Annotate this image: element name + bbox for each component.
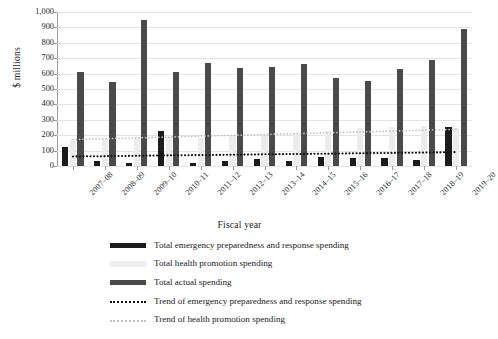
x-tick-mark bbox=[169, 166, 170, 170]
x-tick-label: 2011–12 bbox=[215, 170, 242, 197]
trend-line bbox=[73, 152, 456, 156]
y-tick-mark bbox=[53, 104, 57, 105]
x-tick-label: 2013–14 bbox=[279, 170, 306, 197]
legend-item: Total emergency preparedness and respons… bbox=[110, 236, 470, 255]
x-axis-title: Fiscal year bbox=[0, 219, 479, 230]
x-tick-label: 2009–10 bbox=[151, 170, 178, 197]
y-tick-mark bbox=[53, 151, 57, 152]
x-tick-mark bbox=[105, 166, 106, 170]
x-tick-label: 2018–19 bbox=[439, 170, 466, 197]
x-tick-mark bbox=[456, 166, 457, 170]
x-tick-mark bbox=[233, 166, 234, 170]
y-tick-mark bbox=[53, 43, 57, 44]
y-tick-label: 800 bbox=[8, 39, 54, 47]
x-tick-mark bbox=[424, 166, 425, 170]
x-tick-mark bbox=[328, 166, 329, 170]
trend-line bbox=[73, 129, 456, 139]
x-tick-label: 2010–11 bbox=[183, 170, 210, 197]
y-tick-label: 1,000 bbox=[8, 8, 54, 16]
x-tick-mark bbox=[360, 166, 361, 170]
y-tick-label: 500 bbox=[8, 85, 54, 93]
legend-item: Total actual spending bbox=[110, 273, 470, 292]
legend-item: Trend of health promotion spending bbox=[110, 310, 470, 329]
x-tick-label: 2007–08 bbox=[88, 170, 115, 197]
legend-label: Total health promotion spending bbox=[154, 259, 272, 268]
legend-swatch-icon bbox=[110, 301, 146, 303]
trend-lines bbox=[57, 12, 472, 166]
y-tick-mark bbox=[53, 58, 57, 59]
y-tick-label: 400 bbox=[8, 100, 54, 108]
x-tick-mark bbox=[201, 166, 202, 170]
plot-area bbox=[57, 12, 472, 166]
x-tick-mark bbox=[137, 166, 138, 170]
x-tick-label: 2016–17 bbox=[375, 170, 402, 197]
y-tick-mark bbox=[53, 120, 57, 121]
legend-label: Total emergency preparedness and respons… bbox=[154, 241, 349, 250]
x-axis-tick-labels: 2007–082008–092009–102010–112011–122012–… bbox=[57, 166, 472, 224]
y-tick-label: 900 bbox=[8, 23, 54, 31]
y-tick-label: 0 bbox=[8, 162, 54, 170]
x-tick-label: 2017–18 bbox=[407, 170, 434, 197]
y-tick-label: 300 bbox=[8, 116, 54, 124]
legend-label: Total actual spending bbox=[154, 278, 232, 287]
legend-swatch-icon bbox=[110, 280, 146, 285]
legend-swatch-icon bbox=[110, 261, 146, 267]
x-tick-mark bbox=[265, 166, 266, 170]
x-tick-mark bbox=[296, 166, 297, 170]
x-tick-mark bbox=[73, 166, 74, 170]
x-tick-label: 2014–15 bbox=[311, 170, 338, 197]
y-tick-label: 700 bbox=[8, 54, 54, 62]
y-tick-mark bbox=[53, 135, 57, 136]
legend-label: Trend of emergency preparedness and resp… bbox=[154, 297, 362, 306]
x-tick-label: 2008–09 bbox=[119, 170, 146, 197]
x-tick-label: 2012–13 bbox=[247, 170, 274, 197]
legend-label: Trend of health promotion spending bbox=[154, 315, 285, 324]
legend-swatch-icon bbox=[110, 320, 146, 322]
y-tick-mark bbox=[53, 74, 57, 75]
legend-swatch-icon bbox=[110, 243, 146, 248]
legend-item: Trend of emergency preparedness and resp… bbox=[110, 292, 470, 311]
y-axis-tick-labels: 01002003004005006007008009001,000 bbox=[8, 0, 54, 339]
legend-item: Total health promotion spending bbox=[110, 255, 470, 274]
y-tick-label: 600 bbox=[8, 70, 54, 78]
y-tick-mark bbox=[53, 12, 57, 13]
chart-legend: Total emergency preparedness and respons… bbox=[110, 236, 470, 329]
y-tick-mark bbox=[53, 27, 57, 28]
x-tick-mark bbox=[392, 166, 393, 170]
x-tick-label: 2019–20 bbox=[471, 170, 498, 197]
y-tick-label: 100 bbox=[8, 147, 54, 155]
y-tick-label: 200 bbox=[8, 131, 54, 139]
y-tick-mark bbox=[53, 166, 57, 167]
y-tick-mark bbox=[53, 89, 57, 90]
x-tick-label: 2015–16 bbox=[343, 170, 370, 197]
